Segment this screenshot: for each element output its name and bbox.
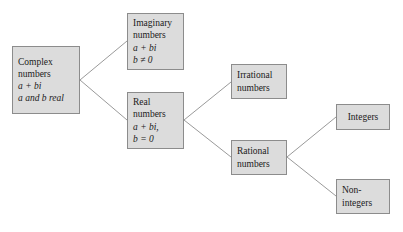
node-complex-line-3: a + bi	[13, 80, 79, 92]
node-imaginary-line-4: b ≠ 0	[128, 54, 183, 66]
complex-numbers-diagram: Complex numbers a + bi a and b real Imag…	[0, 0, 403, 232]
node-rational-line-2: numbers	[232, 158, 286, 170]
node-complex-line-1: Complex	[13, 56, 79, 68]
edge-complex-to-imaginary	[80, 41, 127, 80]
node-irrational-line-1: Irrational	[232, 69, 286, 81]
node-nonintegers-line-1: Non-	[337, 184, 389, 196]
node-real-line-4: b = 0	[128, 133, 183, 145]
node-complex-line-4: a and b real	[13, 92, 79, 104]
node-integers-line-1: Integers	[337, 111, 389, 123]
node-nonintegers-line-2: integers	[337, 197, 389, 209]
node-non-integers[interactable]: Non- integers	[336, 179, 390, 214]
node-complex-numbers[interactable]: Complex numbers a + bi a and b real	[12, 46, 80, 114]
node-imaginary-numbers[interactable]: Imaginary numbers a + bi b ≠ 0	[127, 13, 184, 70]
edge-rational-to-integers	[287, 117, 336, 157]
edge-real-to-rational	[184, 120, 231, 157]
node-real-numbers[interactable]: Real numbers a + bi, b = 0	[127, 92, 184, 149]
node-imaginary-line-2: numbers	[128, 29, 183, 41]
node-irrational-numbers[interactable]: Irrational numbers	[231, 64, 287, 99]
node-real-line-1: Real	[128, 96, 183, 108]
edge-rational-to-nonintegers	[287, 157, 336, 196]
node-rational-numbers[interactable]: Rational numbers	[231, 140, 287, 175]
node-irrational-line-2: numbers	[232, 82, 286, 94]
edge-real-to-irrational	[184, 82, 231, 120]
node-rational-line-1: Rational	[232, 145, 286, 157]
node-imaginary-line-1: Imaginary	[128, 17, 183, 29]
edge-complex-to-real	[80, 80, 127, 120]
node-imaginary-line-3: a + bi	[128, 42, 183, 54]
node-complex-line-2: numbers	[13, 68, 79, 80]
node-real-line-2: numbers	[128, 108, 183, 120]
node-integers[interactable]: Integers	[336, 104, 390, 130]
node-real-line-3: a + bi,	[128, 121, 183, 133]
